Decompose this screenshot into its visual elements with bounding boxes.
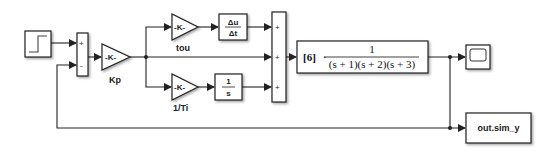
branch-point xyxy=(448,55,452,59)
plant-numerator: 1 xyxy=(369,43,375,55)
gain-text: -K- xyxy=(174,23,185,32)
sum-sign: - xyxy=(80,61,83,70)
derivative-den: Δt xyxy=(229,29,238,38)
plant-transfer-function[interactable]: [6] · 1 (s + 1)(s + 2)(s + 3) xyxy=(297,41,428,73)
sum-block-error[interactable]: + - xyxy=(77,33,88,76)
branch-point xyxy=(144,55,148,59)
gain-label-ti: 1/Ti xyxy=(173,103,188,113)
gain-label-kp: Kp xyxy=(109,75,121,85)
plant-denominator: (s + 1)(s + 2)(s + 3) xyxy=(329,58,416,71)
gain-block-ti[interactable]: -K- xyxy=(172,74,198,100)
integrator-block[interactable]: 1 s xyxy=(215,74,242,100)
gain-block-tou[interactable]: -K- xyxy=(172,14,198,40)
derivative-num: Δu xyxy=(228,18,239,27)
sum-sign: + xyxy=(79,39,84,48)
sum-block-pid[interactable]: + + + xyxy=(272,12,286,102)
workspace-variable-name: out.sim_y xyxy=(477,123,519,133)
branch-point xyxy=(448,126,452,130)
scope-screen-icon xyxy=(470,49,486,61)
signal-to-ti[interactable] xyxy=(146,57,171,87)
gain-text: -K- xyxy=(105,53,116,62)
signal-output-to-workspace[interactable] xyxy=(450,57,465,128)
gain-block-kp[interactable]: -K- xyxy=(102,44,130,70)
to-workspace-block[interactable]: out.sim_y xyxy=(466,113,531,143)
signal-to-tou[interactable] xyxy=(146,27,171,57)
step-block[interactable] xyxy=(25,31,51,57)
sum-sign: + xyxy=(275,83,280,92)
plant-gain: [6] xyxy=(303,51,316,63)
integrator-den: s xyxy=(226,89,231,98)
sum-sign: + xyxy=(275,53,280,62)
derivative-block[interactable]: Δu Δt xyxy=(219,14,247,40)
gain-label-tou: tou xyxy=(176,43,190,53)
sum-sign: + xyxy=(275,23,280,32)
simulink-canvas: + - -K- Kp -K- tou Δu Δt -K- 1/Ti 1 s + … xyxy=(0,0,559,153)
scope-block[interactable] xyxy=(466,45,490,69)
integrator-num: 1 xyxy=(226,77,231,86)
gain-text: -K- xyxy=(174,83,185,92)
